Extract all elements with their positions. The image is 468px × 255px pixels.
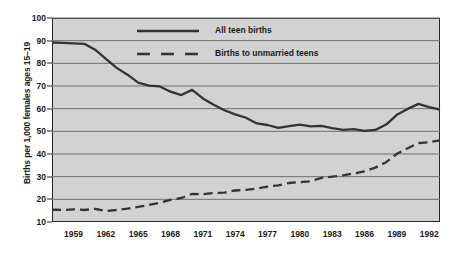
y-tick-mark xyxy=(47,199,52,200)
y-tick-label: 30 xyxy=(37,172,46,182)
y-tick-label: 80 xyxy=(37,58,46,68)
x-tick-label: 1977 xyxy=(258,229,277,239)
y-tick-label: 50 xyxy=(37,126,46,136)
legend-swatch-1 xyxy=(137,28,199,34)
legend-label-1: All teen births xyxy=(215,25,272,35)
teen-birth-rate-chart: Births per 1,000 females ages 15–19 1009… xyxy=(0,0,468,255)
x-tick-label: 1968 xyxy=(161,229,180,239)
x-tick-label: 1983 xyxy=(323,229,342,239)
x-tick-label: 1989 xyxy=(387,229,406,239)
plot-area: 100908070605040302010 195919621965196819… xyxy=(52,18,440,222)
x-tick-label: 1962 xyxy=(96,229,115,239)
x-tick-label: 1980 xyxy=(290,229,309,239)
y-tick-mark xyxy=(47,176,52,177)
x-tick-label: 1986 xyxy=(355,229,374,239)
y-tick-mark xyxy=(47,86,52,87)
y-tick-label: 60 xyxy=(37,104,46,114)
x-tick-label: 1992 xyxy=(420,229,439,239)
y-tick-mark xyxy=(47,108,52,109)
y-tick-label: 100 xyxy=(32,13,46,23)
x-tick-label: 1971 xyxy=(193,229,212,239)
x-tick-label: 1959 xyxy=(64,229,83,239)
y-tick-label: 70 xyxy=(37,81,46,91)
series-line-2 xyxy=(52,140,440,211)
y-tick-mark xyxy=(47,40,52,41)
x-tick-label: 1974 xyxy=(226,229,245,239)
y-tick-label: 90 xyxy=(37,36,46,46)
y-tick-label: 40 xyxy=(37,149,46,159)
y-tick-mark xyxy=(47,222,52,223)
y-tick-label: 20 xyxy=(37,194,46,204)
y-tick-mark xyxy=(47,18,52,19)
y-axis-title: Births per 1,000 females ages 15–19 xyxy=(22,18,32,208)
gridlines xyxy=(52,18,440,199)
y-tick-mark xyxy=(47,154,52,155)
legend-swatch-2 xyxy=(137,51,199,57)
y-tick-label: 10 xyxy=(37,217,46,227)
legend-label-2: Births to unmarried teens xyxy=(215,48,318,58)
x-tick-label: 1965 xyxy=(129,229,148,239)
y-tick-mark xyxy=(47,131,52,132)
y-tick-mark xyxy=(47,63,52,64)
series-lines xyxy=(52,42,440,211)
